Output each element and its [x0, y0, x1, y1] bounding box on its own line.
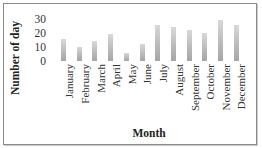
x-tick-label: May [121, 62, 133, 122]
x-axis-title: Month [0, 127, 262, 139]
plot-area [52, 14, 252, 64]
y-axis-ticks: 30 20 10 0 [24, 0, 46, 100]
x-tick-label: August [168, 62, 180, 122]
x-tick-label: November [215, 62, 227, 122]
bar-may [124, 53, 129, 61]
x-tick-label: February [74, 62, 86, 122]
y-tick: 10 [35, 41, 47, 53]
bar-november [218, 20, 223, 61]
y-tick: 30 [35, 13, 47, 25]
bar-january [61, 39, 66, 61]
x-tick-label: January [58, 62, 70, 122]
y-tick: 0 [40, 55, 46, 67]
x-tick-label: December [231, 62, 243, 122]
x-tick-label: March [89, 62, 101, 122]
bar-february [77, 47, 82, 61]
x-tick-label: June [137, 62, 149, 122]
x-axis-labels: JanuaryFebruaryMarchAprilMayJuneJulyAugu… [52, 62, 252, 122]
x-tick-label: April [105, 62, 117, 122]
bar-december [234, 25, 239, 61]
y-tick: 20 [35, 27, 47, 39]
bar-september [187, 30, 192, 61]
bar-march [92, 41, 97, 61]
bar-july [155, 25, 160, 61]
bar-june [140, 44, 145, 61]
x-tick-label: July [152, 62, 164, 122]
bar-august [171, 27, 176, 61]
bar-october [202, 33, 207, 61]
bar-april [108, 34, 113, 61]
y-axis-title: Number of day [8, 8, 22, 108]
x-tick-label: September [184, 62, 196, 122]
x-tick-label: October [199, 62, 211, 122]
